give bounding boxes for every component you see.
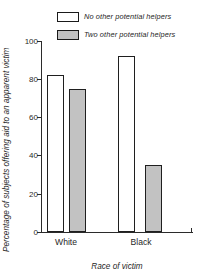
legend-item-label: Two other potential helpers (84, 30, 175, 39)
y-tick-label: 60 (29, 113, 38, 122)
x-category-label-white: White (55, 237, 77, 247)
x-axis-end-cap (191, 228, 192, 233)
bar-black-no-other-helpers (118, 56, 135, 231)
y-tick-label: 80 (29, 75, 38, 84)
white-swatch-icon (57, 12, 79, 22)
legend-item-two-other-helpers: Two other potential helpers (57, 27, 197, 42)
bar-white-no-other-helpers (47, 75, 64, 231)
bar-chart-figure: No other potential helpers Two other pot… (0, 0, 197, 279)
y-tick-label: 20 (29, 189, 38, 198)
bar-black-two-other-helpers (145, 165, 162, 232)
gray-swatch-icon (57, 30, 79, 40)
y-tick-label: 100 (25, 37, 38, 46)
y-tick-label: 40 (29, 151, 38, 160)
chart-legend: No other potential helpers Two other pot… (57, 9, 197, 45)
plot-area: 100 80 60 40 20 0 (41, 41, 193, 233)
x-axis-line (41, 232, 193, 233)
x-axis-title: Race of victim (41, 262, 193, 271)
legend-item-no-other-helpers: No other potential helpers (57, 9, 197, 24)
legend-item-label: No other potential helpers (84, 12, 171, 21)
x-category-label-black: Black (130, 237, 151, 247)
bar-white-two-other-helpers (69, 89, 86, 232)
y-axis-title: Percentage of subjects offering aid to a… (2, 22, 16, 252)
y-tick-label: 0 (34, 227, 38, 236)
y-axis-line (41, 41, 42, 233)
